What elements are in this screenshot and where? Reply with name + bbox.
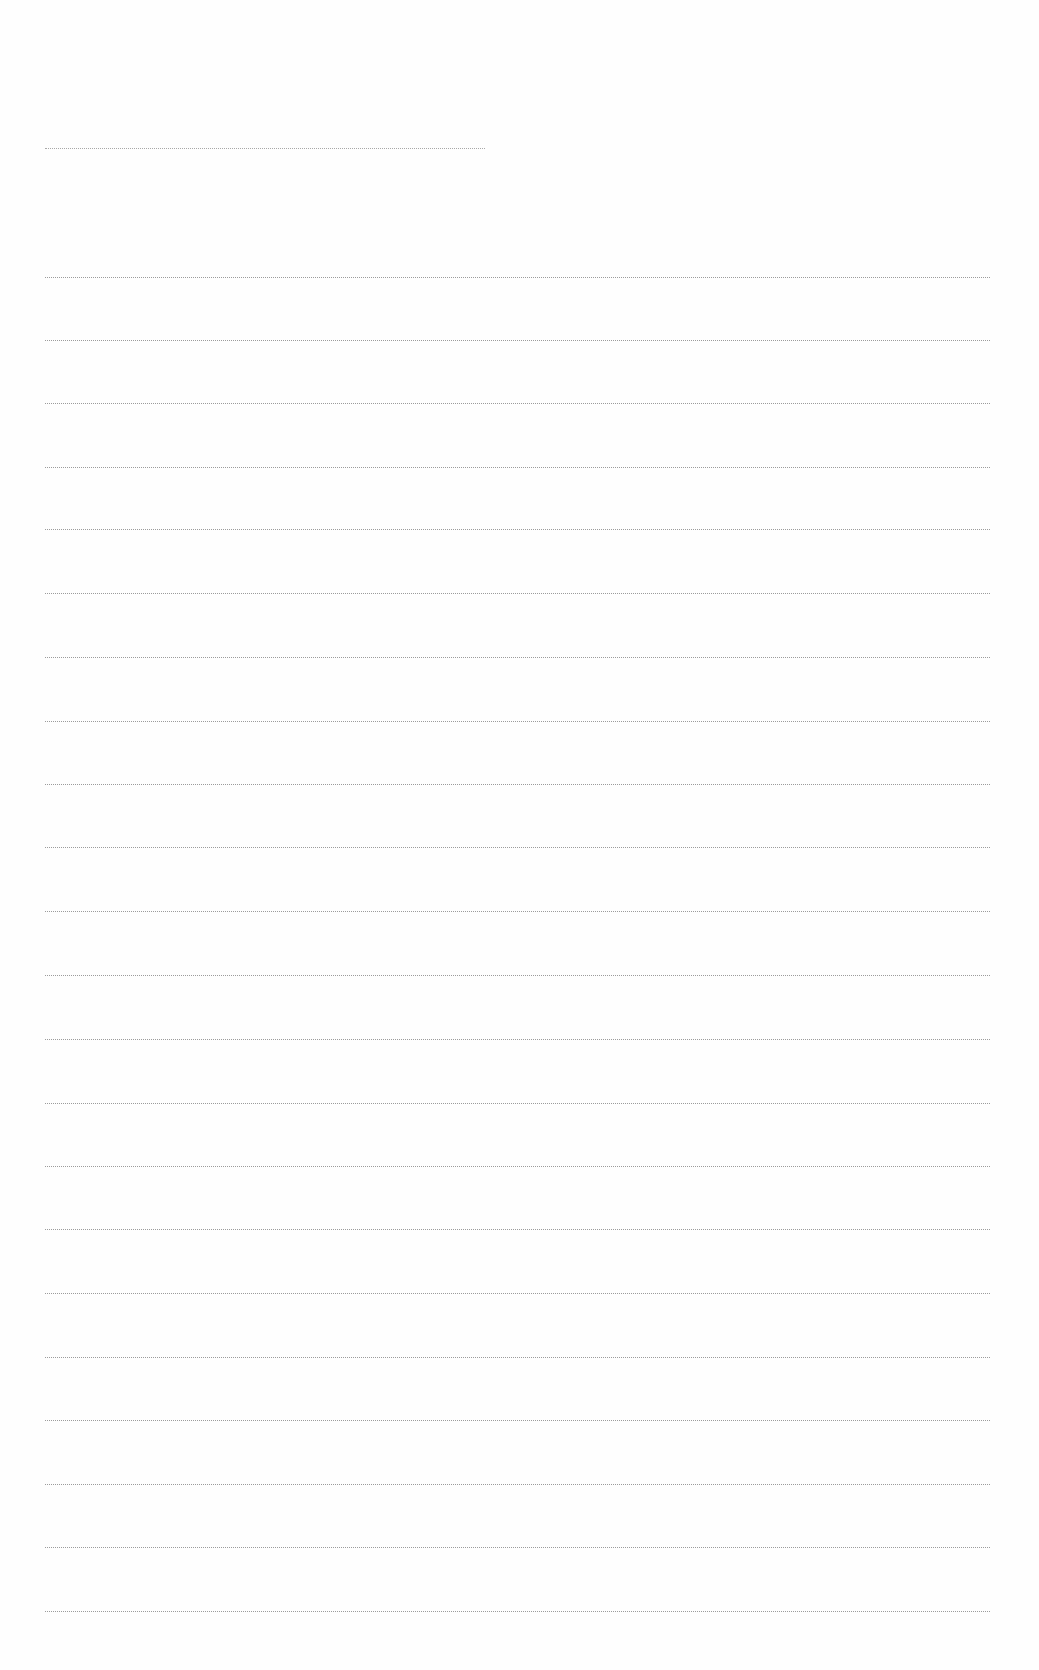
ruled-line	[45, 403, 990, 404]
ruled-line	[45, 1166, 990, 1167]
ruled-line	[45, 1357, 990, 1358]
lined-page	[0, 0, 1039, 1670]
ruled-line	[45, 277, 990, 278]
ruled-line	[45, 721, 990, 722]
ruled-line	[45, 1103, 990, 1104]
ruled-line	[45, 1229, 990, 1230]
ruled-line	[45, 529, 990, 530]
ruled-line	[45, 1039, 990, 1040]
ruled-line	[45, 911, 990, 912]
ruled-line	[45, 1547, 990, 1548]
ruled-line	[45, 1293, 990, 1294]
ruled-line	[45, 1420, 990, 1421]
ruled-line	[45, 340, 990, 341]
ruled-line	[45, 975, 990, 976]
ruled-line	[45, 593, 990, 594]
header-rule	[45, 148, 485, 149]
ruled-line	[45, 784, 990, 785]
ruled-line	[45, 847, 990, 848]
ruled-line	[45, 1611, 990, 1612]
ruled-line	[45, 467, 990, 468]
ruled-line	[45, 1484, 990, 1485]
ruled-line	[45, 657, 990, 658]
